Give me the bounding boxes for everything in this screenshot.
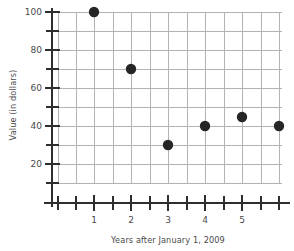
data-point xyxy=(163,140,173,150)
chart-canvas: 100 80 60 40 20 1 2 3 4 5 Years after Ja… xyxy=(0,0,294,251)
data-point xyxy=(89,7,99,17)
data-point xyxy=(126,64,136,74)
x-tick-label: 2 xyxy=(128,215,134,225)
y-axis-title: Value (in dollars) xyxy=(8,70,18,141)
y-tick-label: 80 xyxy=(31,45,43,55)
y-axis-tick-labels: 100 80 60 40 20 xyxy=(25,7,42,169)
y-tick-label: 60 xyxy=(31,83,43,93)
scatter-plot-figure: 100 80 60 40 20 1 2 3 4 5 Years after Ja… xyxy=(0,0,294,251)
data-point xyxy=(274,121,284,131)
data-point xyxy=(200,121,210,131)
y-tick-label: 20 xyxy=(31,159,43,169)
x-tick-label: 5 xyxy=(239,215,245,225)
x-axis-tick-labels: 1 2 3 4 5 xyxy=(91,215,245,225)
x-tick-label: 1 xyxy=(91,215,97,225)
horizontal-gridlines xyxy=(58,12,282,183)
vertical-gridlines xyxy=(58,12,279,183)
data-point xyxy=(237,112,247,122)
x-tick-label: 4 xyxy=(202,215,208,225)
y-tick-label: 40 xyxy=(31,121,43,131)
y-tick-label: 100 xyxy=(25,7,42,17)
x-axis-title: Years after January 1, 2009 xyxy=(110,235,225,245)
x-tick-label: 3 xyxy=(165,215,171,225)
